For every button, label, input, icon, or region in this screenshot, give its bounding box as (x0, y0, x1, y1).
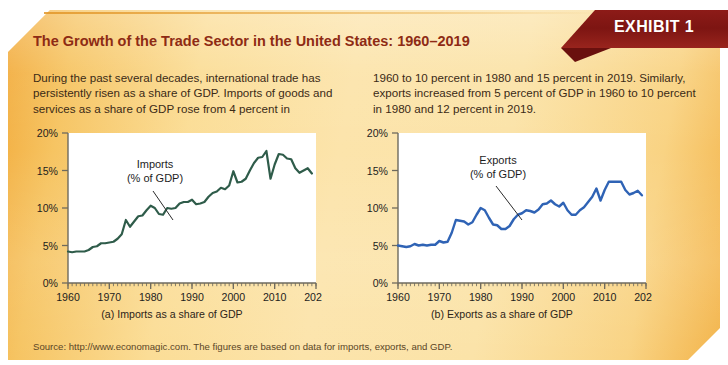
svg-text:1990: 1990 (180, 291, 204, 303)
chart-exports-svg: 0%5%10%15%20% 19601970198019902000201020… (352, 126, 652, 306)
svg-text:2000: 2000 (222, 291, 246, 303)
svg-text:1980: 1980 (139, 291, 163, 303)
svg-text:15%: 15% (367, 165, 389, 177)
chart-imports-caption: (a) Imports as a share of GDP (22, 308, 322, 320)
chart-imports: 0%5%10%15%20% 19601970198019902000201020… (22, 126, 322, 336)
exports-label-line2: (% of GDP) (470, 168, 526, 180)
y-axis-tick-labels: 0%5%10%15%20% (37, 127, 59, 289)
svg-text:1960: 1960 (56, 291, 80, 303)
svg-text:0%: 0% (373, 277, 389, 289)
chart-exports-caption: (b) Exports as a share of GDP (352, 308, 652, 320)
svg-text:5%: 5% (373, 240, 389, 252)
exhibit-figure: EXHIBIT 1 The Growth of the Trade Sector… (0, 0, 728, 365)
svg-text:15%: 15% (37, 165, 59, 177)
svg-text:2000: 2000 (552, 291, 576, 303)
y-axis-ticks (392, 133, 398, 283)
svg-text:20%: 20% (37, 127, 59, 139)
svg-text:2020: 2020 (304, 291, 322, 303)
svg-text:20%: 20% (367, 127, 389, 139)
plot-background (398, 133, 646, 283)
svg-text:1960: 1960 (386, 291, 410, 303)
svg-text:2010: 2010 (593, 291, 617, 303)
svg-text:1970: 1970 (428, 291, 452, 303)
chart-imports-svg: 0%5%10%15%20% 19601970198019902000201020… (22, 126, 322, 306)
svg-text:1970: 1970 (98, 291, 122, 303)
svg-text:2010: 2010 (263, 291, 287, 303)
exports-label-line1: Exports (479, 154, 517, 166)
svg-text:10%: 10% (367, 202, 389, 214)
svg-text:5%: 5% (43, 240, 59, 252)
imports-label-line2: (% of GDP) (127, 172, 183, 184)
svg-text:0%: 0% (43, 277, 59, 289)
svg-text:1980: 1980 (469, 291, 493, 303)
imports-label-line1: Imports (137, 158, 174, 170)
exhibit-description-left: During the past several decades, interna… (33, 70, 363, 116)
exhibit-badge-label: EXHIBIT 1 (614, 18, 694, 36)
y-axis-tick-labels: 0%5%10%15%20% (367, 127, 389, 289)
exhibit-source-note: Source: http://www.economagic.com. The f… (33, 341, 452, 352)
svg-text:1990: 1990 (510, 291, 534, 303)
x-axis-tick-labels: 1960197019801990200020102020 (56, 291, 322, 303)
svg-text:10%: 10% (37, 202, 59, 214)
header-divider-rule (44, 12, 604, 14)
y-axis-ticks (62, 133, 68, 283)
chart-exports: 0%5%10%15%20% 19601970198019902000201020… (352, 126, 652, 336)
exhibit-description-right: 1960 to 10 percent in 1980 and 15 percen… (373, 70, 703, 116)
svg-text:2020: 2020 (634, 291, 652, 303)
x-axis-tick-labels: 1960197019801990200020102020 (386, 291, 652, 303)
exhibit-title: The Growth of the Trade Sector in the Un… (33, 33, 470, 49)
